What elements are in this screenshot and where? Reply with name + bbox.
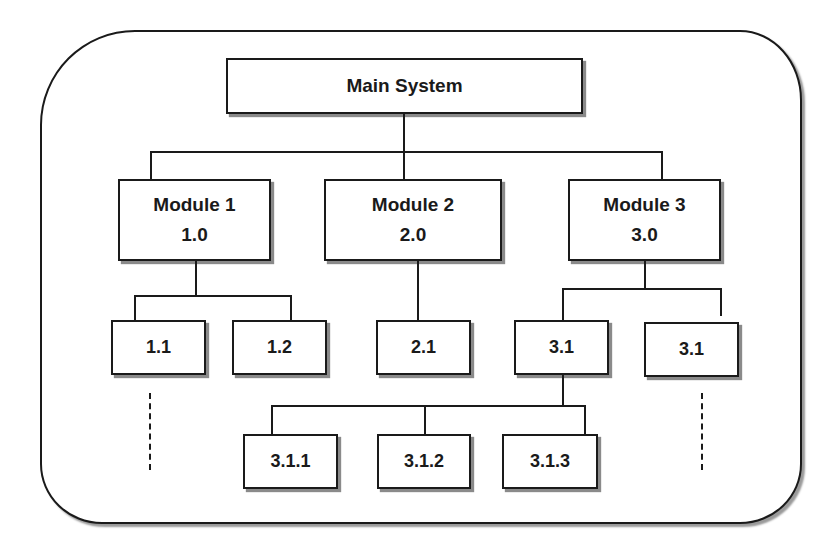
connector — [562, 375, 564, 406]
node-2-1: 2.1 — [376, 320, 471, 375]
node-label: 1.2 — [267, 337, 292, 358]
connector — [403, 114, 405, 152]
connector — [195, 261, 197, 295]
continuation-dashed-line — [149, 393, 151, 470]
connector — [661, 151, 663, 179]
connector — [562, 288, 564, 320]
node-module-3: Module 3 3.0 — [568, 179, 721, 261]
node-3-1-3: 3.1.3 — [502, 434, 598, 489]
connector — [134, 295, 292, 297]
connector — [562, 288, 722, 290]
node-module-2: Module 2 2.0 — [324, 179, 502, 261]
node-label: 3.1 — [679, 339, 704, 360]
module-code: 1.0 — [181, 222, 207, 248]
node-3-1: 3.1 — [514, 320, 609, 375]
connector — [584, 405, 586, 434]
node-3-1-second: 3.1 — [644, 322, 739, 377]
node-main-system: Main System — [226, 58, 583, 114]
node-label: Main System — [346, 73, 462, 99]
connector — [720, 288, 722, 316]
connector — [150, 151, 152, 179]
node-label: 2.1 — [411, 337, 436, 358]
node-3-1-1: 3.1.1 — [243, 434, 338, 489]
connector — [150, 151, 663, 153]
connector — [271, 405, 586, 407]
node-1-1: 1.1 — [111, 320, 206, 375]
node-label: 3.1.2 — [404, 451, 444, 472]
node-label: 3.1.1 — [270, 451, 310, 472]
connector — [134, 295, 136, 320]
node-label: 3.1.3 — [530, 451, 570, 472]
node-label: 1.1 — [146, 337, 171, 358]
connector — [403, 151, 405, 179]
connector — [417, 261, 419, 320]
node-label: 3.1 — [549, 337, 574, 358]
connector — [290, 295, 292, 320]
module-code: 2.0 — [400, 222, 426, 248]
continuation-dashed-line — [701, 393, 703, 470]
connector — [271, 405, 273, 434]
module-name: Module 1 — [153, 192, 235, 218]
node-3-1-2: 3.1.2 — [377, 434, 471, 489]
module-name: Module 2 — [372, 192, 454, 218]
node-1-2: 1.2 — [232, 320, 327, 375]
module-name: Module 3 — [603, 192, 685, 218]
node-module-1: Module 1 1.0 — [118, 179, 271, 261]
connector — [644, 261, 646, 289]
module-code: 3.0 — [631, 222, 657, 248]
connector — [424, 405, 426, 434]
